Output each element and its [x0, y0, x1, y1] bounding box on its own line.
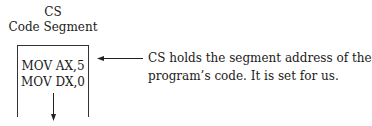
pointer-arrow-icon — [97, 56, 143, 61]
down-arrow-icon — [51, 93, 56, 121]
annotation-line-1: CS holds the segment address of the — [148, 49, 372, 67]
annotation-line-2: program’s code. It is set for us. — [148, 67, 339, 85]
